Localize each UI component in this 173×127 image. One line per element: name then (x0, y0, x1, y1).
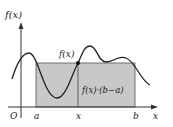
diagram-canvas: f(x) f(x) f(x)·(b−a) O a x b x (0, 0, 173, 127)
rectangle-label: f(x)·(b−a) (81, 85, 124, 95)
mean-value-point (76, 61, 80, 65)
point-value-label: f(x) (58, 49, 75, 59)
y-axis-label: f(x) (4, 9, 22, 20)
origin-label: O (10, 111, 18, 121)
x-axis-arrow-icon (151, 105, 158, 110)
point-b-label: b (133, 111, 139, 121)
point-x-label: x (76, 111, 81, 121)
y-axis-arrow-icon (19, 22, 24, 29)
x-axis-label: x (153, 111, 158, 121)
point-a-label: a (34, 111, 39, 121)
